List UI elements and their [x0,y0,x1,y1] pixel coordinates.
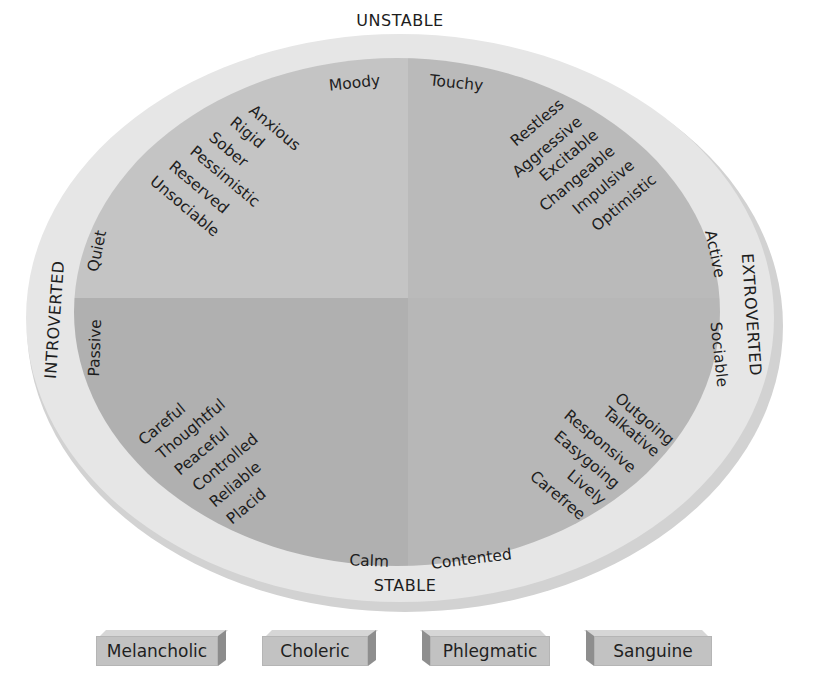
personality-circle: UNSTABLE STABLE INTROVERTED EXTROVERTED … [0,0,820,697]
temperament-label: Melancholic [96,636,218,666]
temperament-label: Choleric [262,636,368,666]
temperament-box-sanguine: Sanguine [586,630,712,666]
temperament-box-melancholic: Melancholic [96,630,226,666]
temperament-label: Sanguine [594,636,712,666]
trait-calm: Calm [349,551,389,570]
temperament-label: Phlegmatic [430,636,550,666]
temperament-box-choleric: Choleric [262,630,376,666]
trait-passive: Passive [85,319,105,377]
axis-label-stable: STABLE [374,576,437,595]
axis-label-unstable: UNSTABLE [356,11,443,30]
personality-diagram: UNSTABLE STABLE INTROVERTED EXTROVERTED … [0,0,820,697]
temperament-box-phlegmatic: Phlegmatic [422,630,550,666]
